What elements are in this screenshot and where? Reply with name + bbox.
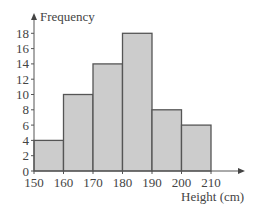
histogram-bar-180-190 (123, 33, 153, 171)
y-tick-label: 16 (16, 41, 30, 56)
histogram-bar-160-170 (64, 95, 94, 172)
histogram-bar-150-160 (34, 140, 64, 171)
y-tick-label: 8 (23, 102, 30, 117)
x-tick-label: 160 (54, 175, 74, 190)
y-tick-label: 4 (23, 133, 30, 148)
histogram-bar-170-180 (93, 64, 123, 171)
y-tick-label: 10 (16, 87, 29, 102)
x-tick-label: 190 (142, 175, 162, 190)
x-tick-label: 180 (113, 175, 133, 190)
y-tick-label: 12 (16, 72, 29, 87)
x-axis-arrow-icon (238, 168, 245, 174)
y-tick-label: 18 (16, 26, 29, 41)
histogram-bar-200-210 (182, 125, 212, 171)
y-tick-label: 14 (16, 56, 30, 71)
x-tick-label: 170 (83, 175, 103, 190)
x-axis-label: Height (cm) (181, 189, 244, 204)
x-tick-label: 200 (172, 175, 192, 190)
y-tick-label: 6 (23, 118, 30, 133)
y-axis-arrow-icon (31, 13, 37, 20)
x-tick-label: 210 (201, 175, 221, 190)
histogram-chart: 024681012141618150160170180190200210Freq… (0, 0, 257, 216)
y-axis-label: Frequency (40, 9, 95, 24)
y-tick-label: 2 (23, 148, 30, 163)
histogram-bar-190-200 (152, 110, 182, 171)
x-tick-label: 150 (24, 175, 44, 190)
